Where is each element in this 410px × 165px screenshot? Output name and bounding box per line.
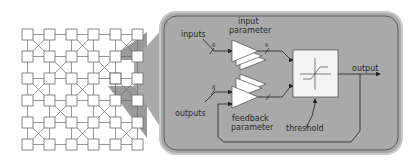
neuron-node bbox=[110, 139, 121, 150]
inputs-label: inputs bbox=[181, 30, 206, 39]
feedback-parameter-label-2: parameter bbox=[231, 123, 274, 132]
neuron-node bbox=[22, 117, 33, 128]
neuron-node bbox=[22, 139, 33, 150]
neuron-node bbox=[22, 73, 33, 84]
neuron-node bbox=[44, 29, 55, 40]
neuron-node bbox=[44, 139, 55, 150]
neuron-node bbox=[44, 73, 55, 84]
neuron-node bbox=[110, 51, 121, 62]
neuron-node bbox=[88, 73, 99, 84]
neuron-node bbox=[110, 29, 121, 40]
neuron-node bbox=[132, 139, 143, 150]
neuron-detail-panel: inputs 8 input parameter 8 outputs 8 fee… bbox=[160, 12, 402, 154]
neuron-node bbox=[88, 117, 99, 128]
outputs-label: outputs bbox=[175, 109, 206, 118]
input-parameter-label-1: input bbox=[238, 17, 259, 26]
neuron-node bbox=[110, 95, 121, 106]
diagram-canvas: inputs 8 input parameter 8 outputs 8 fee… bbox=[0, 0, 410, 165]
neuron-node bbox=[22, 29, 33, 40]
neuron-node bbox=[44, 95, 55, 106]
neuron-node bbox=[66, 73, 77, 84]
neuron-node bbox=[88, 51, 99, 62]
neuron-node bbox=[66, 139, 77, 150]
threshold-label: threshold bbox=[286, 124, 324, 133]
neuron-node bbox=[132, 95, 143, 106]
neuron-node bbox=[66, 117, 77, 128]
neuron-node bbox=[88, 95, 99, 106]
neuron-node bbox=[132, 117, 143, 128]
neuron-node bbox=[132, 29, 143, 40]
neuron-node bbox=[44, 51, 55, 62]
neuron-node bbox=[132, 73, 143, 84]
input-param-bus-width: 8 bbox=[265, 42, 268, 48]
inputs-bus-width: 8 bbox=[212, 42, 215, 48]
output-label: output bbox=[352, 64, 378, 73]
neuron-node bbox=[132, 51, 143, 62]
neuron-node bbox=[66, 29, 77, 40]
neuron-node bbox=[66, 51, 77, 62]
neuron-node bbox=[88, 139, 99, 150]
neuron-node bbox=[66, 95, 77, 106]
feedback-parameter-label-1: feedback bbox=[232, 114, 269, 123]
neuron-node bbox=[22, 51, 33, 62]
neuron-node bbox=[44, 117, 55, 128]
threshold-block bbox=[293, 50, 338, 97]
neuron-node bbox=[110, 117, 121, 128]
neuron-node bbox=[22, 95, 33, 106]
neuron-node bbox=[88, 29, 99, 40]
highlighted-neuron bbox=[110, 73, 121, 84]
outputs-bus-width: 8 bbox=[212, 84, 215, 90]
input-parameter-label-2: parameter bbox=[229, 26, 272, 35]
